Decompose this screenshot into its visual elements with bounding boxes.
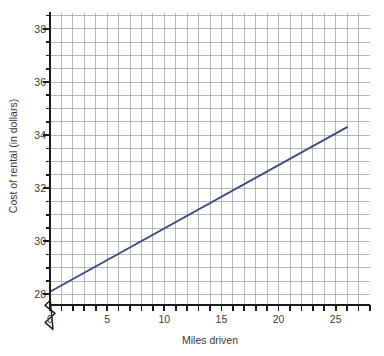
- x-tick-label: 20: [266, 313, 292, 325]
- y-tick-label: 28: [24, 288, 46, 300]
- y-tick-label: 32: [24, 182, 46, 194]
- y-tick-label: 30: [24, 235, 46, 247]
- x-tick-label: 0: [37, 313, 63, 325]
- x-axis-title: Miles driven: [50, 334, 370, 346]
- x-tick-label: 10: [151, 313, 177, 325]
- y-axis-title-label: Cost of rental (in dollars): [7, 99, 19, 213]
- x-tick-label-group: 0510152025: [0, 313, 384, 331]
- x-tick-label: 25: [323, 313, 349, 325]
- line-chart: Cost of rental (in dollars) 283032343638…: [0, 0, 384, 356]
- y-tick-label-group: 283032343638: [20, 0, 46, 356]
- plot-area: [50, 13, 370, 305]
- y-tick-label: 34: [24, 129, 46, 141]
- x-tick-label: 15: [208, 313, 234, 325]
- x-tick-label: 5: [94, 313, 120, 325]
- y-tick-label: 36: [24, 76, 46, 88]
- y-tick-label: 38: [24, 23, 46, 35]
- data-series-layer: [50, 13, 370, 305]
